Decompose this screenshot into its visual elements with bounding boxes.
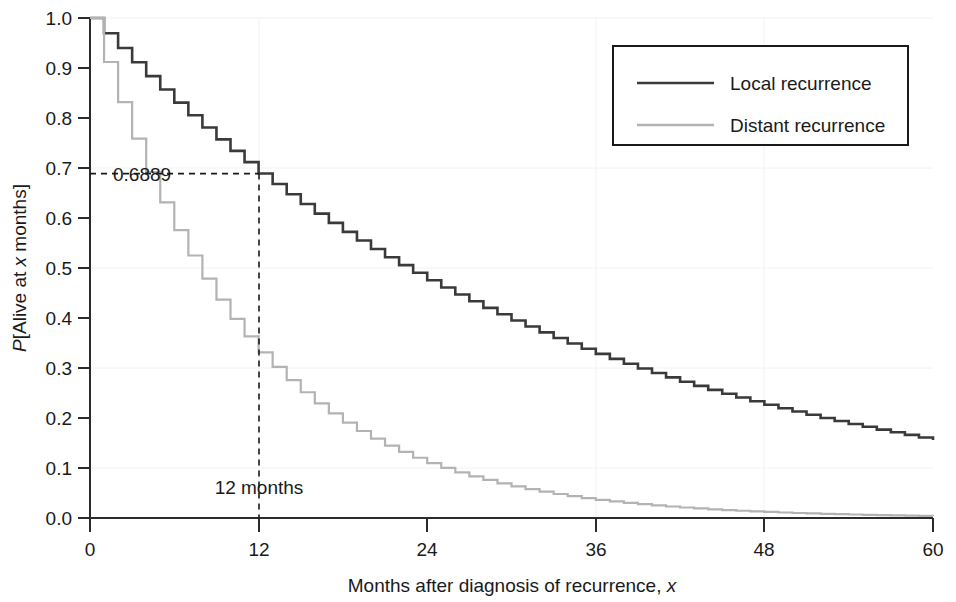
y-tick-label: 0.0 xyxy=(46,508,72,529)
x-tick-label: 48 xyxy=(753,539,774,560)
x-tick-label: 60 xyxy=(922,539,943,560)
y-tick-label: 0.9 xyxy=(46,58,72,79)
survival-chart: 1.0 0.9 0.8 0.7 0.6 0.5 0.4 0.3 0.2 0.1 … xyxy=(0,0,956,602)
x-tick-label: 12 xyxy=(248,539,269,560)
legend: Local recurrence Distant recurrence xyxy=(613,46,908,145)
months-annotation-label: 12 months xyxy=(215,477,304,498)
x-axis-title-main: Months after diagnosis of recurrence, xyxy=(348,575,667,596)
y-tick-label: 0.1 xyxy=(46,458,72,479)
x-axis-title-italic: x xyxy=(666,575,678,596)
x-axis-title: Months after diagnosis of recurrence, x xyxy=(348,575,678,596)
y-tick-label: 0.3 xyxy=(46,358,72,379)
y-axis-title-part2: months] xyxy=(9,184,30,257)
y-tick-label: 0.5 xyxy=(46,258,72,279)
y-axis-title-p: P xyxy=(9,339,30,352)
y-axis-title: P[Alive at x months] xyxy=(9,184,30,352)
y-tick-label: 0.8 xyxy=(46,108,72,129)
x-tick-label: 36 xyxy=(585,539,606,560)
legend-label-distant-recurrence: Distant recurrence xyxy=(730,115,885,136)
y-axis-title-part1: [Alive at xyxy=(9,266,30,339)
legend-label-local-recurrence: Local recurrence xyxy=(730,73,872,94)
y-tick-label: 0.7 xyxy=(46,158,72,179)
x-tick-label: 24 xyxy=(416,539,438,560)
y-tick-label: 0.2 xyxy=(46,408,72,429)
figure-container: 1.0 0.9 0.8 0.7 0.6 0.5 0.4 0.3 0.2 0.1 … xyxy=(0,0,956,602)
x-tick-label: 0 xyxy=(85,539,96,560)
y-tick-label: 0.4 xyxy=(46,308,73,329)
y-tick-label: 0.6 xyxy=(46,208,72,229)
y-tick-label: 1.0 xyxy=(46,8,72,29)
prob-annotation-label: 0.6889 xyxy=(113,164,171,185)
